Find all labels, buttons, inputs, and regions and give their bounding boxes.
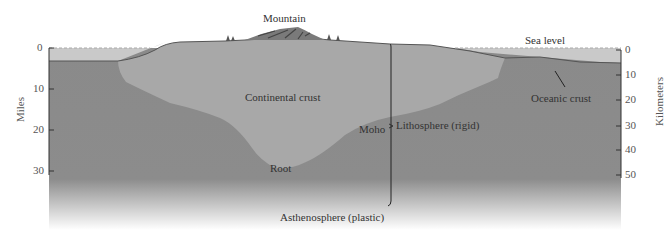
root-label: Root bbox=[270, 163, 291, 174]
right-tick-30: 30 bbox=[625, 120, 636, 131]
right-tick-0: 0 bbox=[625, 44, 631, 55]
right-tick-20: 20 bbox=[625, 94, 636, 105]
right-axis-label: Kilometers bbox=[654, 77, 665, 126]
crust-cross-section-diagram bbox=[0, 0, 671, 247]
left-axis-label: Miles bbox=[15, 97, 26, 122]
mountain-shape bbox=[245, 27, 325, 40]
right-tick-10: 10 bbox=[625, 69, 636, 80]
left-tick-30: 30 bbox=[33, 165, 44, 176]
mountain-label: Mountain bbox=[263, 13, 306, 24]
moho-label: Moho bbox=[359, 124, 385, 135]
continental-crust-label: Continental crust bbox=[245, 92, 320, 103]
left-tick-0: 0 bbox=[37, 42, 43, 53]
oceanic-crust-label: Oceanic crust bbox=[531, 93, 591, 104]
right-tick-50: 50 bbox=[625, 169, 636, 180]
lithosphere-label: Lithosphere (rigid) bbox=[396, 120, 479, 131]
right-tick-40: 40 bbox=[625, 144, 636, 155]
sea-level-label: Sea level bbox=[525, 35, 565, 46]
left-tick-10: 10 bbox=[33, 83, 44, 94]
asthenosphere-label: Asthenosphere (plastic) bbox=[280, 212, 384, 223]
left-tick-20: 20 bbox=[33, 124, 44, 135]
